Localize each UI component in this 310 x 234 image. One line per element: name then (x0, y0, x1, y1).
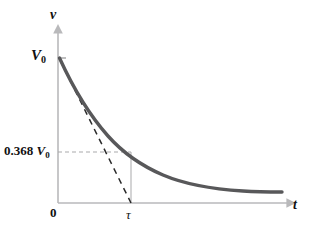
threshold-symbol: V (37, 143, 46, 158)
initial-value-subscript: 0 (41, 54, 46, 65)
initial-value-label: V0 (31, 48, 46, 65)
plot-canvas (0, 0, 310, 234)
decay-curve (60, 58, 283, 192)
threshold-subscript: 0 (45, 150, 50, 160)
origin-label: 0 (50, 206, 57, 219)
threshold-value-label: 0.368 V0 (4, 144, 50, 160)
time-constant-label: τ (126, 208, 131, 221)
exponential-decay-figure: v t V0 0.368 V0 0 τ (0, 0, 310, 234)
x-axis-label: t (293, 198, 297, 212)
initial-value-symbol: V (31, 47, 41, 63)
y-axis-label: v (50, 8, 56, 22)
threshold-coefficient: 0.368 (4, 143, 33, 158)
